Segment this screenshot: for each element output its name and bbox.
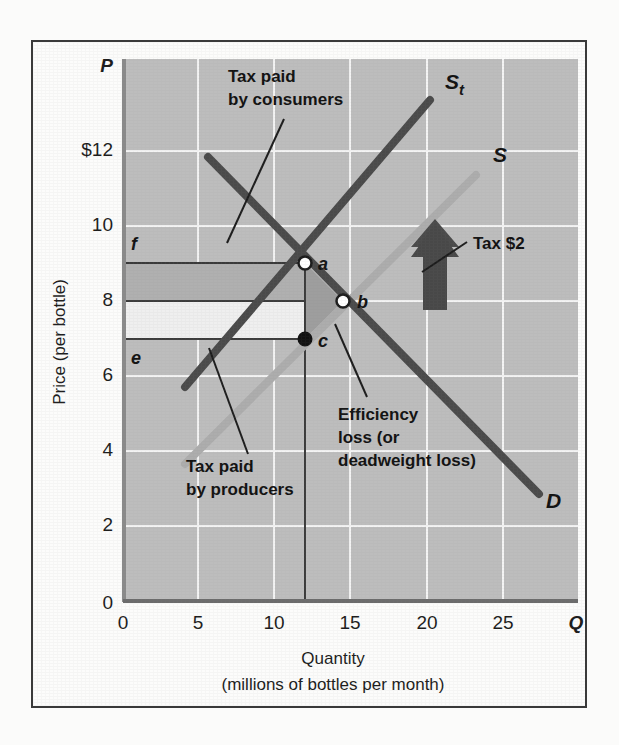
efficiency-loss-line3: deadweight loss) bbox=[338, 451, 476, 470]
curve-label-d: D bbox=[546, 489, 561, 512]
point-a-marker bbox=[299, 257, 312, 270]
xtick-15: 15 bbox=[339, 612, 360, 633]
efficiency-loss-line2: loss (or bbox=[338, 428, 400, 447]
x-axis-title-line2: (millions of bottles per month) bbox=[222, 675, 445, 694]
axis-letter-e: e bbox=[131, 348, 141, 368]
tax-paid-by-consumers-line1: Tax paid bbox=[228, 67, 296, 86]
figure-frame: a b c f e St S D Tax paid by consumers T… bbox=[31, 40, 587, 708]
point-c-label: c bbox=[318, 331, 328, 351]
ytick-4: 4 bbox=[102, 439, 113, 460]
y-axis-symbol: P bbox=[100, 55, 113, 76]
ytick-0: 0 bbox=[102, 592, 113, 613]
region-tax-paid-by-producers bbox=[125, 301, 305, 339]
curve-label-s: S bbox=[493, 143, 507, 166]
tax-paid-by-producers-line2: by producers bbox=[186, 480, 294, 499]
point-b-label: b bbox=[357, 292, 368, 312]
tax-paid-by-consumers-line2: by consumers bbox=[228, 90, 343, 109]
x-axis-title-line1: Quantity bbox=[301, 649, 365, 668]
tax-paid-by-producers-line1: Tax paid bbox=[186, 457, 254, 476]
point-b-marker bbox=[337, 295, 350, 308]
xtick-5: 5 bbox=[193, 612, 204, 633]
xtick-20: 20 bbox=[416, 612, 437, 633]
point-a-label: a bbox=[318, 254, 328, 274]
ytick-2: 2 bbox=[102, 514, 113, 535]
ytick-6: 6 bbox=[102, 364, 113, 385]
ytick-12: $12 bbox=[81, 139, 113, 160]
ytick-8: 8 bbox=[102, 289, 113, 310]
supply-demand-chart: a b c f e St S D Tax paid by consumers T… bbox=[33, 42, 585, 706]
y-axis-title: Price (per bottle) bbox=[50, 279, 69, 405]
xtick-25: 25 bbox=[492, 612, 513, 633]
tax-amount-label: Tax $2 bbox=[473, 234, 525, 253]
xtick-10: 10 bbox=[263, 612, 284, 633]
curve-label-st-main: S bbox=[445, 70, 459, 93]
efficiency-loss-line1: Efficiency bbox=[338, 405, 419, 424]
xtick-0: 0 bbox=[118, 612, 129, 633]
point-c-marker bbox=[299, 333, 312, 346]
x-axis-symbol: Q bbox=[569, 612, 584, 633]
ytick-10: 10 bbox=[92, 214, 113, 235]
